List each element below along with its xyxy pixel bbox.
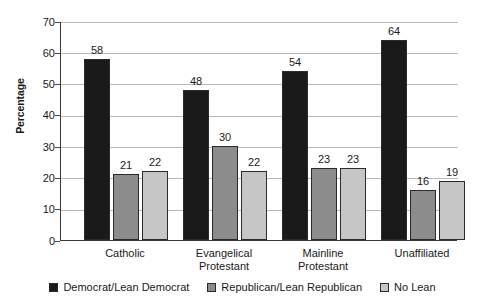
- legend-item-democrat[interactable]: Democrat/Lean Democrat: [49, 282, 189, 293]
- legend-label-democrat: Democrat/Lean Democrat: [63, 282, 189, 293]
- category-label-unaffiliated-line1: Unaffiliated: [362, 247, 482, 260]
- legend-label-nolean: No Lean: [394, 282, 436, 293]
- legend-swatch-nolean-icon: [380, 283, 389, 292]
- y-axis-title: Percentage: [14, 61, 26, 151]
- bar-catholic-nolean[interactable]: [142, 171, 168, 240]
- plot-area: 58 21 22 48 30 22 54 23 23 64: [60, 22, 457, 241]
- y-tick-70: 70: [27, 17, 55, 28]
- bar-catholic-republican[interactable]: [113, 174, 139, 240]
- bar-unaffiliated-nolean[interactable]: [439, 181, 465, 240]
- bar-value-catholic-democrat: 58: [82, 45, 112, 56]
- y-tick-20: 20: [27, 173, 55, 184]
- chart-legend: Democrat/Lean Democrat Republican/Lean R…: [0, 282, 485, 293]
- bar-catholic-democrat[interactable]: [84, 59, 110, 240]
- legend-swatch-republican-icon: [207, 283, 216, 292]
- y-tick-label-20: 20: [31, 173, 55, 184]
- bar-group-catholic: 58 21 22: [84, 21, 168, 240]
- bar-chart: Percentage 70 60 50 40 30 20 10 0: [0, 0, 485, 299]
- legend-label-republican: Republican/Lean Republican: [221, 282, 362, 293]
- y-tick-0: 0: [27, 236, 55, 247]
- bar-group-unaffiliated: 64 16 19: [381, 21, 465, 240]
- bar-value-mainline-democrat: 54: [280, 57, 310, 68]
- bar-group-mainline-protestant: 54 23 23: [282, 21, 366, 240]
- bar-value-unaffiliated-nolean: 19: [437, 167, 467, 178]
- y-tick-label-40: 40: [31, 110, 55, 121]
- bar-value-unaffiliated-democrat: 64: [379, 26, 409, 37]
- category-label-mainline-line2: Protestant: [263, 260, 383, 273]
- bar-value-catholic-republican: 21: [111, 160, 141, 171]
- bar-value-evangelical-nolean: 22: [239, 157, 269, 168]
- y-tick-label-50: 50: [31, 79, 55, 90]
- bar-mainline-democrat[interactable]: [282, 71, 308, 240]
- bar-evangelical-nolean[interactable]: [241, 171, 267, 240]
- y-tick-label-30: 30: [31, 142, 55, 153]
- category-label-unaffiliated: Unaffiliated: [362, 247, 482, 260]
- bar-value-mainline-republican: 23: [309, 154, 339, 165]
- y-tick-40: 40: [27, 110, 55, 121]
- bar-value-evangelical-democrat: 48: [181, 76, 211, 87]
- bar-group-evangelical-protestant: 48 30 22: [183, 21, 267, 240]
- legend-swatch-democrat-icon: [49, 283, 58, 292]
- bar-evangelical-democrat[interactable]: [183, 90, 209, 240]
- y-tick-30: 30: [27, 142, 55, 153]
- bar-evangelical-republican[interactable]: [212, 146, 238, 240]
- bar-value-mainline-nolean: 23: [338, 154, 368, 165]
- y-tick-10: 10: [27, 204, 55, 215]
- bar-value-unaffiliated-republican: 16: [408, 176, 438, 187]
- y-tick-label-60: 60: [31, 48, 55, 59]
- y-tick-label-10: 10: [31, 204, 55, 215]
- bar-mainline-nolean[interactable]: [340, 168, 366, 240]
- bar-mainline-republican[interactable]: [311, 168, 337, 240]
- bar-value-evangelical-republican: 30: [210, 132, 240, 143]
- y-tick-60: 60: [27, 48, 55, 59]
- y-tick-label-0: 0: [31, 236, 55, 247]
- bar-unaffiliated-republican[interactable]: [410, 190, 436, 240]
- y-tick-mark-0: [55, 241, 60, 242]
- legend-item-republican[interactable]: Republican/Lean Republican: [207, 282, 362, 293]
- y-tick-50: 50: [27, 79, 55, 90]
- y-tick-label-70: 70: [31, 17, 55, 28]
- bar-value-catholic-nolean: 22: [140, 157, 170, 168]
- legend-item-nolean[interactable]: No Lean: [380, 282, 436, 293]
- bar-unaffiliated-democrat[interactable]: [381, 40, 407, 240]
